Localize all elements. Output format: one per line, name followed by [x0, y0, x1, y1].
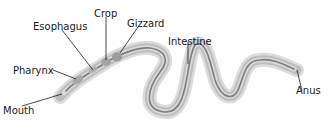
label-gizzard: Gizzard	[127, 19, 164, 29]
gizzard-organ	[112, 53, 122, 62]
label-pharynx: Pharynx	[13, 66, 54, 76]
label-intestine: Intestine	[168, 37, 212, 47]
label-mouth: Mouth	[3, 106, 34, 116]
label-esophagus: Esophagus	[33, 22, 87, 32]
label-crop: Crop	[94, 9, 117, 19]
worm-diagram: Mouth Pharynx Esophagus Crop Gizzard Int…	[0, 0, 335, 131]
label-anus: Anus	[296, 86, 321, 96]
